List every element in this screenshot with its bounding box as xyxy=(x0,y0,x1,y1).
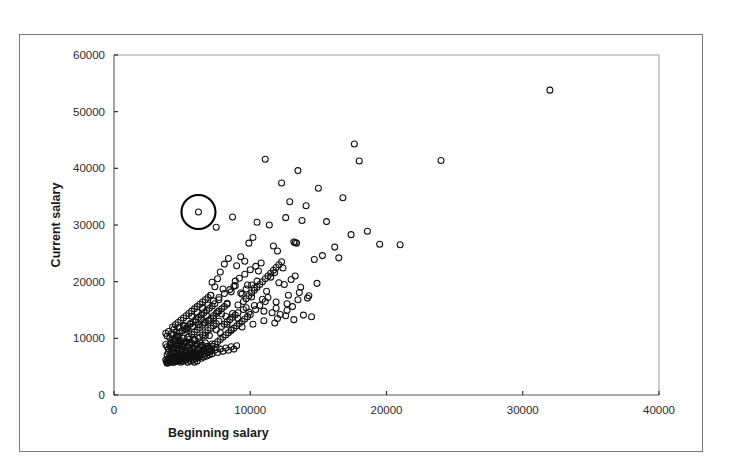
data-point xyxy=(309,314,315,320)
data-point xyxy=(262,156,268,162)
y-tick-label: 60000 xyxy=(73,49,105,61)
data-point xyxy=(311,257,317,263)
data-point xyxy=(348,232,354,238)
data-point xyxy=(273,305,279,311)
data-point xyxy=(377,241,383,247)
data-point xyxy=(264,288,270,294)
x-tick-label: 30000 xyxy=(507,404,539,416)
scanned-page: 0100002000030000400005000060000 01000020… xyxy=(0,0,732,468)
y-tick-label: 20000 xyxy=(73,276,105,288)
data-point xyxy=(285,292,291,298)
data-point xyxy=(336,255,342,261)
data-point xyxy=(315,185,321,191)
data-point xyxy=(397,242,403,248)
data-point xyxy=(547,87,553,93)
data-point xyxy=(340,195,346,201)
data-point xyxy=(272,320,278,326)
data-point xyxy=(280,265,286,271)
y-tick-group: 0100002000030000400005000060000 xyxy=(73,49,118,401)
data-point xyxy=(275,248,281,254)
y-tick-label: 30000 xyxy=(73,219,105,231)
y-tick-label: 0 xyxy=(99,389,105,401)
y-axis-title: Current salary xyxy=(49,183,63,268)
data-point xyxy=(300,312,306,318)
data-point xyxy=(295,168,301,174)
data-point xyxy=(253,263,259,269)
data-point xyxy=(287,199,293,205)
data-point xyxy=(195,209,201,215)
y-tick-label: 50000 xyxy=(73,106,105,118)
data-point xyxy=(258,260,264,266)
x-tick-label: 0 xyxy=(111,404,117,416)
data-point xyxy=(295,297,301,303)
x-tick-label: 20000 xyxy=(371,404,403,416)
data-point xyxy=(292,273,298,279)
data-point xyxy=(246,240,252,246)
annotation-layer xyxy=(181,195,215,229)
data-point xyxy=(324,219,330,225)
data-point xyxy=(266,222,272,228)
data-point xyxy=(261,308,267,314)
data-point xyxy=(261,318,267,324)
outlier-highlight-circle xyxy=(181,195,215,229)
data-point xyxy=(291,317,297,323)
data-point xyxy=(242,271,248,277)
data-point xyxy=(250,234,256,240)
data-point xyxy=(438,157,444,163)
x-tick-label: 10000 xyxy=(234,404,266,416)
data-point xyxy=(225,255,231,261)
x-axis-title: Beginning salary xyxy=(168,426,269,440)
data-point xyxy=(356,158,362,164)
data-point xyxy=(230,214,236,220)
data-point xyxy=(270,243,276,249)
data-point xyxy=(217,269,223,275)
data-point xyxy=(250,321,256,327)
y-tick-label: 40000 xyxy=(73,162,105,174)
plot-frame xyxy=(114,55,659,395)
data-point xyxy=(209,279,215,285)
x-tick-label: 40000 xyxy=(643,404,675,416)
data-point xyxy=(303,203,309,209)
data-point xyxy=(281,282,287,288)
data-point xyxy=(332,244,338,250)
data-point xyxy=(364,228,370,234)
data-point xyxy=(221,261,227,267)
y-tick-label: 10000 xyxy=(73,332,105,344)
data-point xyxy=(288,276,294,282)
data-point xyxy=(319,253,325,259)
data-point xyxy=(299,217,305,223)
data-point xyxy=(273,299,279,305)
data-point xyxy=(254,219,260,225)
data-point xyxy=(284,301,290,307)
data-point xyxy=(235,302,241,308)
data-point xyxy=(279,180,285,186)
data-point xyxy=(283,215,289,221)
data-points-layer xyxy=(163,87,553,366)
scatter-chart: 0100002000030000400005000060000 01000020… xyxy=(0,0,732,468)
data-point xyxy=(247,267,253,273)
data-point xyxy=(213,224,219,230)
data-point xyxy=(234,263,240,269)
data-point xyxy=(243,286,249,292)
data-point xyxy=(314,280,320,286)
data-point xyxy=(215,276,221,282)
data-point xyxy=(242,258,248,264)
data-point xyxy=(351,141,357,147)
